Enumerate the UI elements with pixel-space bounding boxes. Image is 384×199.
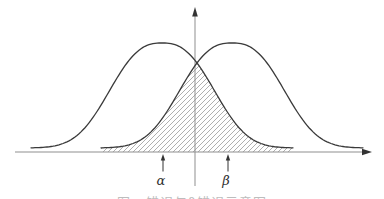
beta-marker: β <box>221 154 230 188</box>
figure-canvas: αβ 图 α错误与β错误示意图 <box>0 0 384 199</box>
x-axis-arrowhead-icon <box>362 149 372 155</box>
beta-label: β <box>221 173 230 188</box>
alpha-label: α <box>157 173 166 188</box>
alpha-arrowhead-icon <box>161 154 165 161</box>
beta-arrowhead-icon <box>226 154 230 161</box>
distributions-diagram: αβ <box>0 0 384 199</box>
figure-caption: 图 α错误与β错误示意图 <box>0 192 384 199</box>
y-axis-arrowhead-icon <box>192 7 198 17</box>
overlap-hatched-region <box>101 63 293 152</box>
alpha-marker: α <box>157 154 166 188</box>
